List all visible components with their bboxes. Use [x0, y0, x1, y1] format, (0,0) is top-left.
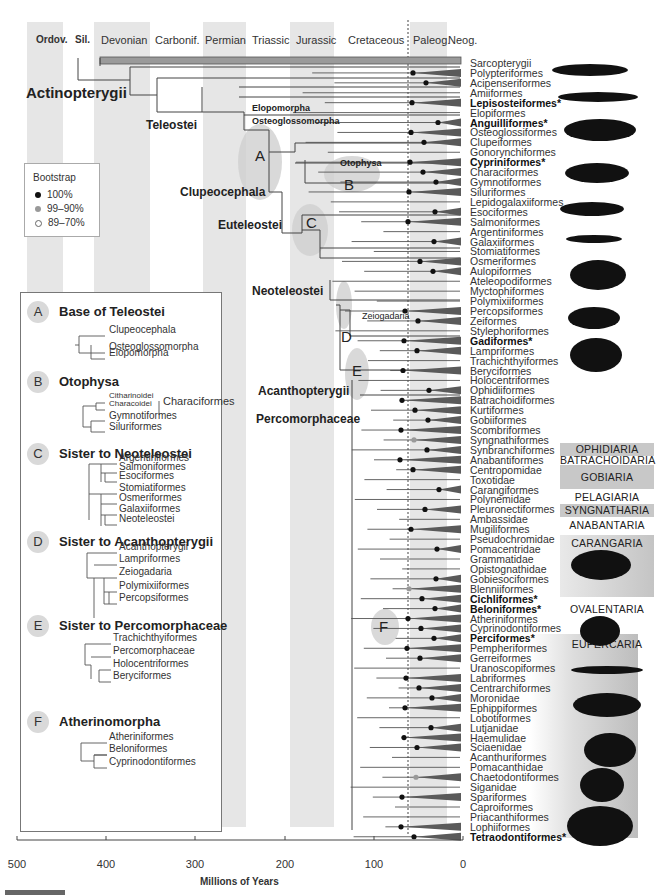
marker-b: B [344, 176, 354, 193]
clade-zeiogadaria: Zeiogadaria [362, 311, 410, 321]
legend-item: Holocentriformes [113, 658, 189, 669]
legend-item: Clupeocephala [109, 324, 176, 335]
clade-teleostei: Teleostei [146, 118, 197, 132]
clade-otophysa: Otophysa [340, 158, 382, 168]
clade-euteleostei: Euteleostei [218, 218, 282, 232]
legend-item: Cyprinodontiformes [109, 756, 196, 767]
tag-ovalentaria: OVALENTARIA [560, 603, 654, 615]
legend-marker-e: E [27, 615, 49, 637]
legend-item: Characoidei [109, 399, 152, 408]
marker-f: F [379, 618, 388, 635]
legend-item: Polymixiiformes [119, 580, 189, 591]
axis-tick-400: 400 [97, 858, 115, 870]
clade-osteoglossomorpha: Osteoglossomorpha [252, 116, 340, 126]
legend-marker-b: B [27, 371, 49, 393]
legend-item: Percopsiformes [119, 592, 188, 603]
legend-marker-a: A [27, 301, 49, 323]
dot-black-icon [35, 192, 41, 198]
tag-pelagiaria: PELAGIARIA [560, 491, 654, 503]
marker-e: E [352, 362, 362, 379]
axis-tick-300: 300 [186, 858, 204, 870]
marker-c: C [306, 214, 317, 231]
legend-item: Atheriniformes [109, 731, 173, 742]
bootstrap-100: 100% [35, 189, 73, 200]
legend-item: Beryciformes [113, 670, 171, 681]
tag-gobiaria: GOBIARIA [560, 471, 654, 483]
legend-item: Esociformes [119, 470, 174, 481]
axis-tick-500: 500 [8, 858, 26, 870]
legend-item: Siluriformes [109, 421, 162, 432]
tag-syngnatharia: SYNGNATHARIA [560, 504, 654, 516]
legend-item: Trachichthyiformes [113, 632, 197, 643]
clade-legend-panel: ABase of TeleosteiClupeocephalaOsteoglos… [20, 292, 222, 832]
legend-item: Beloniformes [109, 743, 167, 754]
legend-title-f: Atherinomorpha [59, 714, 160, 729]
legend-title-e: Sister to Percomorphaceae [59, 618, 227, 633]
taxon-label: Tetraodontiformes* [470, 831, 566, 843]
bootstrap-title: Bootstrap [33, 172, 76, 183]
clade-acanthopterygii: Acanthopterygii [258, 384, 349, 398]
clade-percomorphaceae: Percomorphaceae [256, 412, 360, 426]
axis-title: Millions of Years [200, 876, 279, 887]
legend-item: Neoteleostei [119, 513, 175, 524]
legend-group-label: Characiformes [163, 395, 235, 407]
legend-item: Percomorphaceae [113, 645, 195, 656]
axis-tick-100: 100 [365, 858, 383, 870]
marker-d: D [341, 328, 352, 345]
bootstrap-99-90: 99–90% [35, 203, 84, 214]
tag-carangaria: CARANGARIA [560, 537, 654, 549]
axis-tick-200: 200 [276, 858, 294, 870]
corner-bar [5, 890, 65, 895]
legend-title-a: Base of Teleostei [59, 304, 165, 319]
dot-gray-icon [35, 206, 41, 212]
clade-actinopterygii: Actinopterygii [26, 84, 127, 101]
legend-marker-c: C [27, 443, 49, 465]
legend-item: Zeiogadaria [119, 566, 172, 577]
clade-clupeocephala: Clupeocephala [180, 185, 265, 199]
tag-batrachoidaria: BATRACHOIDARIA [560, 454, 654, 466]
marker-a: A [255, 147, 265, 164]
clade-neoteleostei: Neoteleostei [252, 284, 323, 298]
dot-white-icon [35, 220, 42, 227]
legend-marker-d: D [27, 531, 49, 553]
bootstrap-legend: Bootstrap 100% 99–90% 89–70% [24, 163, 100, 237]
legend-item: Elopomorpha [109, 347, 168, 358]
tag-eupercaria: EUPERCARIA [560, 638, 654, 650]
tag-anabantaria: ANABANTARIA [560, 519, 654, 531]
axis-tick-0: 0 [460, 858, 466, 870]
legend-item: Lampriformes [119, 553, 180, 564]
legend-marker-f: F [27, 711, 49, 733]
legend-item: Acanthopterygii [119, 541, 188, 552]
legend-title-b: Otophysa [59, 374, 119, 389]
legend-item: Gymnotiformes [109, 410, 177, 421]
clade-elopomorpha: Elopomorpha [252, 103, 310, 113]
bootstrap-89-70: 89–70% [35, 217, 85, 228]
legend-item: Osmeriformes [119, 492, 182, 503]
